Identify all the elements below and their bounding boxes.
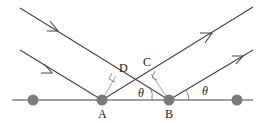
label-A: A	[98, 107, 107, 121]
incoming-ray-lower	[20, 50, 102, 100]
bragg-reflection-diagram: D C A B θ θ	[0, 0, 267, 123]
atom-4	[232, 95, 243, 106]
incoming-ray-upper	[20, 8, 169, 100]
label-D: D	[119, 61, 128, 75]
label-C: C	[143, 55, 151, 69]
atom-1	[28, 95, 39, 106]
right-angle-marker-D	[109, 73, 115, 82]
outgoing-ray-lower	[169, 50, 253, 100]
label-B: B	[165, 107, 173, 121]
label-theta-right: θ	[202, 84, 208, 98]
label-theta-left: θ	[138, 86, 144, 100]
outgoing-ray-upper	[102, 7, 253, 100]
atom-A	[97, 95, 108, 106]
atom-B	[164, 95, 175, 106]
arrow-icon	[41, 21, 58, 73]
theta-arc-right	[186, 90, 189, 100]
right-angle-marker-C	[152, 71, 157, 80]
